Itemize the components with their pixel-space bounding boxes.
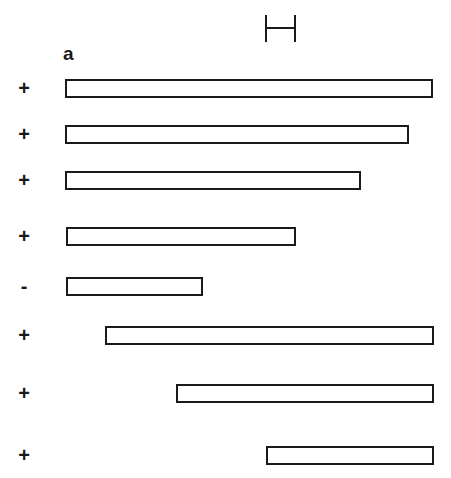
construct-sign: + bbox=[14, 325, 34, 345]
construct-bar bbox=[65, 125, 409, 144]
construct-sign: + bbox=[14, 445, 34, 465]
construct-bar bbox=[65, 79, 433, 98]
construct-bar bbox=[105, 326, 434, 345]
construct-bar bbox=[65, 171, 361, 190]
panel-label: a bbox=[63, 43, 74, 65]
construct-bar bbox=[266, 446, 434, 465]
scale-bar-right-tick bbox=[294, 15, 296, 42]
construct-sign: + bbox=[14, 78, 34, 98]
construct-bar bbox=[176, 384, 434, 403]
construct-bar bbox=[66, 227, 296, 246]
construct-sign: + bbox=[14, 124, 34, 144]
construct-bar bbox=[66, 277, 203, 296]
construct-sign: + bbox=[14, 226, 34, 246]
scale-bar bbox=[265, 15, 296, 42]
construct-sign: - bbox=[14, 276, 34, 296]
scale-bar-line bbox=[265, 27, 296, 29]
construct-sign: + bbox=[14, 383, 34, 403]
construct-sign: + bbox=[14, 170, 34, 190]
